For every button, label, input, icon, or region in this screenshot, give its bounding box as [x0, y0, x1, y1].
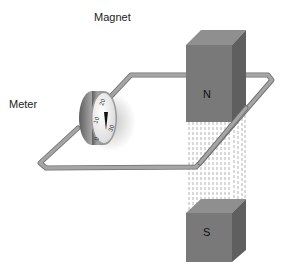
north-pole-label: N: [203, 88, 211, 100]
north-magnet: N: [186, 30, 246, 122]
magnetic-field-lines: [189, 110, 245, 213]
south-magnet: S: [186, 199, 246, 262]
induction-diagram: N S 0 10 20 30: [0, 0, 290, 270]
south-pole-label: S: [203, 226, 210, 238]
meter: 0 10 20 30: [79, 91, 136, 152]
north-magnet-front: [186, 45, 232, 122]
